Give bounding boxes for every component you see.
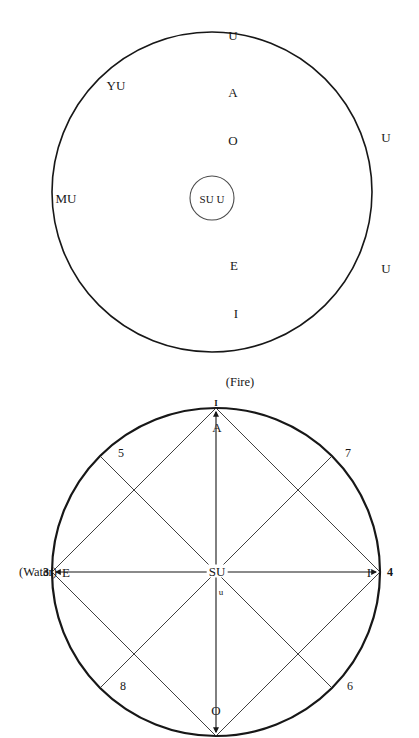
upper-label-o: O	[228, 134, 237, 147]
upper-label-e: E	[230, 259, 238, 272]
lower-center-sublabel-u: u	[219, 588, 224, 597]
lower-point-7: 7	[345, 447, 351, 459]
upper-label-mu: MU	[56, 192, 77, 205]
upper-label-a: A	[228, 86, 237, 99]
upper-label-right-u-lower: U	[381, 262, 390, 275]
lower-label-east-i: I	[367, 566, 371, 579]
upper-label-right-u-upper: U	[381, 131, 390, 144]
lower-label-south-o: O	[211, 704, 220, 717]
lower-label-north-inner-a: A	[212, 421, 221, 434]
lower-label-north-outer-i: I	[214, 399, 218, 408]
lower-point-4: 4	[387, 566, 393, 578]
lower-point-5: 5	[118, 447, 124, 459]
diagram-canvas	[0, 0, 419, 738]
upper-label-top-u: U	[228, 29, 237, 42]
upper-center-label-su-u: SU U	[200, 194, 225, 205]
lower-point-3: 3	[43, 566, 49, 578]
lower-point-8: 8	[120, 680, 126, 692]
upper-label-i: I	[234, 307, 238, 320]
label-water: (Water)	[19, 566, 57, 579]
lower-center-label-su: SU	[207, 565, 228, 578]
label-fire: (Fire)	[226, 376, 254, 389]
upper-label-yu: YU	[107, 79, 126, 92]
figure-root: U YU MU U U A O E I SU U (Fire) (Water) …	[0, 0, 419, 738]
lower-point-6: 6	[347, 680, 353, 692]
lower-label-west-e: E	[62, 566, 70, 579]
